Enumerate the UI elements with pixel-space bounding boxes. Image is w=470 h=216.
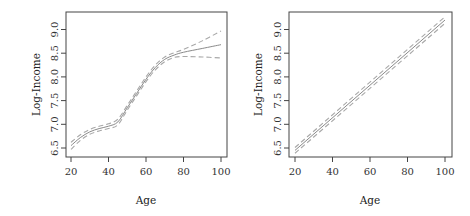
confidence-band-lower [71, 57, 221, 150]
x-tick-label: 80 [401, 166, 414, 177]
confidence-band-lower [295, 23, 445, 153]
x-tick-label: 20 [65, 166, 78, 177]
y-tick-label: 7.5 [272, 93, 283, 109]
x-tick-label: 100 [435, 166, 454, 177]
x-tick-label: 80 [177, 166, 190, 177]
y-tick-label: 8.5 [272, 45, 283, 61]
y-tick-label: 9.0 [49, 22, 60, 38]
y-tick-label: 8.0 [272, 69, 283, 85]
y-tick-label: 9.0 [272, 22, 283, 38]
left-panel-nonlinear-fit: 204060801006.57.07.58.08.59.0AgeLog-Inco… [30, 12, 231, 206]
plot-frame [66, 12, 227, 157]
confidence-band-upper [295, 17, 445, 148]
right-panel-linear-fit: 204060801006.57.07.58.08.59.0AgeLog-Inco… [252, 12, 455, 206]
y-tick-label: 6.5 [272, 140, 283, 156]
y-tick-label: 7.0 [49, 116, 60, 132]
chart-figure: 204060801006.57.07.58.08.59.0AgeLog-Inco… [0, 0, 470, 216]
fit-line [295, 20, 445, 150]
x-tick-label: 100 [211, 166, 230, 177]
y-tick-label: 7.0 [272, 116, 283, 132]
y-tick-label: 7.5 [49, 93, 60, 109]
y-tick-label: 6.5 [49, 140, 60, 156]
y-tick-label: 8.5 [49, 45, 60, 61]
confidence-band-upper [71, 31, 221, 142]
y-axis-title: Log-Income [30, 53, 42, 116]
x-axis-title: Age [135, 194, 157, 206]
y-axis-title: Log-Income [252, 53, 264, 116]
y-tick-label: 8.0 [49, 69, 60, 85]
x-tick-label: 60 [364, 166, 377, 177]
x-tick-label: 40 [326, 166, 339, 177]
x-tick-label: 40 [102, 166, 115, 177]
x-tick-label: 20 [289, 166, 302, 177]
x-axis-title: Age [359, 194, 381, 206]
x-tick-label: 60 [140, 166, 153, 177]
fit-line [71, 45, 221, 146]
